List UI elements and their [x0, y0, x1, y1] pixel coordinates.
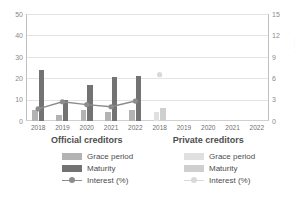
legend-label: Grace period — [87, 152, 133, 161]
legend-label: Grace period — [209, 152, 255, 161]
legend-label: Interest (%) — [87, 176, 128, 185]
x-tick-private-creditors-2022: 2022 — [245, 124, 269, 131]
official-legend: Grace periodMaturityInterest (%) — [62, 150, 133, 186]
legend-label: Interest (%) — [209, 176, 250, 185]
y-tick-right-15: 15 — [272, 11, 295, 18]
private-legend: Grace periodMaturityInterest (%) — [184, 150, 255, 186]
x-tick-official-creditors-2021: 2021 — [99, 124, 123, 131]
legend-item-private-legend-2[interactable]: Interest (%) — [184, 174, 255, 186]
legend-item-official-legend-2[interactable]: Interest (%) — [62, 174, 133, 186]
interest-marker-official-creditors-2021 — [108, 104, 113, 109]
y-tick-left-10: 10 — [0, 96, 23, 103]
legend-item-official-legend-1[interactable]: Maturity — [62, 162, 133, 174]
legend-bar-swatch-icon — [184, 153, 204, 160]
y-tick-right-0: 0 — [272, 118, 295, 125]
y-tick-right-9: 9 — [272, 54, 295, 61]
group-label-private-creditors: Private creditors — [148, 135, 270, 145]
legend-item-private-legend-1[interactable]: Maturity — [184, 162, 255, 174]
legend-label: Maturity — [209, 164, 237, 173]
legend-line-marker-icon — [184, 177, 204, 184]
y-tick-left-30: 30 — [0, 54, 23, 61]
plot-area — [26, 14, 269, 121]
y-axis-title-right: Interest (%) — [293, 37, 295, 76]
interest-line-layer — [26, 14, 269, 121]
x-tick-official-creditors-2018: 2018 — [26, 124, 50, 131]
chart-container: 50 40 30 20 10 0 15 12 9 6 3 0 Years Int… — [0, 0, 295, 199]
x-tick-private-creditors-2020: 2020 — [196, 124, 220, 131]
legend-label: Maturity — [87, 164, 115, 173]
interest-marker-private-creditors-2018 — [157, 72, 162, 77]
legend-item-private-legend-0[interactable]: Grace period — [184, 150, 255, 162]
legend-bar-swatch-icon — [62, 165, 82, 172]
x-tick-private-creditors-2018: 2018 — [148, 124, 172, 131]
x-tick-private-creditors-2019: 2019 — [172, 124, 196, 131]
x-tick-private-creditors-2021: 2021 — [221, 124, 245, 131]
interest-marker-official-creditors-2022 — [133, 98, 138, 103]
x-tick-official-creditors-2022: 2022 — [123, 124, 147, 131]
interest-marker-official-creditors-2018 — [36, 106, 41, 111]
x-tick-official-creditors-2020: 2020 — [75, 124, 99, 131]
y-tick-left-20: 20 — [0, 75, 23, 82]
legend-bar-swatch-icon — [184, 165, 204, 172]
interest-marker-official-creditors-2019 — [60, 99, 65, 104]
y-tick-right-3: 3 — [272, 96, 295, 103]
x-tick-official-creditors-2019: 2019 — [50, 124, 74, 131]
y-tick-right-6: 6 — [272, 75, 295, 82]
legend-line-marker-icon — [62, 177, 82, 184]
y-tick-left-40: 40 — [0, 32, 23, 39]
legend-bar-swatch-icon — [62, 153, 82, 160]
y-tick-right-12: 12 — [272, 32, 295, 39]
y-tick-left-50: 50 — [0, 11, 23, 18]
legend-item-official-legend-0[interactable]: Grace period — [62, 150, 133, 162]
y-tick-left-0: 0 — [0, 118, 23, 125]
group-label-official-creditors: Official creditors — [26, 135, 148, 145]
interest-marker-official-creditors-2020 — [84, 102, 89, 107]
